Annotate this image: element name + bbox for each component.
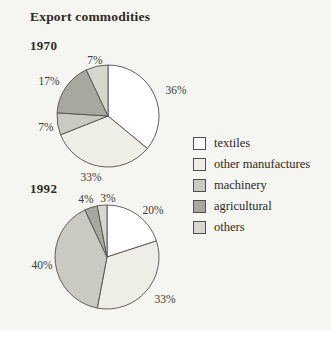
legend-swatch-agricultural: [193, 200, 206, 213]
legend-swatch-others: [193, 221, 206, 234]
legend-label-machinery: machinery: [214, 178, 267, 193]
pie-1992-label-textiles: 20%: [142, 204, 163, 216]
legend-item-agricultural: agricultural: [193, 200, 310, 213]
legend-item-machinery: machinery: [193, 179, 310, 192]
figure-title: Export commodities: [30, 9, 150, 25]
legend-swatch-textiles: [193, 137, 206, 150]
pie-1970-label-other-manufactures: 33%: [80, 171, 101, 183]
legend-swatch-other-manufactures: [193, 158, 206, 171]
pie-chart-1992: [52, 202, 162, 312]
pie-1970-title: 1970: [30, 38, 57, 54]
pie-1970-label-textiles: 36%: [165, 84, 186, 96]
pie-1970-label-agricultural: 17%: [38, 75, 59, 87]
pie-1992-label-machinery: 40%: [31, 259, 52, 271]
legend-swatch-machinery: [193, 179, 206, 192]
legend: textiles other manufactures machinery ag…: [193, 137, 310, 242]
pie-1992-label-agricultural: 4%: [78, 193, 93, 205]
legend-label-other-manufactures: other manufactures: [214, 157, 310, 172]
legend-item-other-manufactures: other manufactures: [193, 158, 310, 171]
legend-label-textiles: textiles: [214, 136, 250, 151]
legend-label-agricultural: agricultural: [214, 199, 272, 214]
figure-export-commodities: Export commodities 1970 36% 33% 7% 17% 7…: [0, 0, 331, 342]
pie-1992-label-others: 3%: [100, 192, 115, 204]
pie-chart-1970: [53, 61, 163, 171]
pie-1970-label-others: 7%: [87, 54, 102, 66]
pie-1992-title: 1992: [30, 181, 57, 197]
legend-item-others: others: [193, 221, 310, 234]
pie-1992-label-other-manufactures: 33%: [154, 293, 175, 305]
pie-1970-label-machinery: 7%: [38, 121, 53, 133]
legend-item-textiles: textiles: [193, 137, 310, 150]
legend-label-others: others: [214, 220, 245, 235]
